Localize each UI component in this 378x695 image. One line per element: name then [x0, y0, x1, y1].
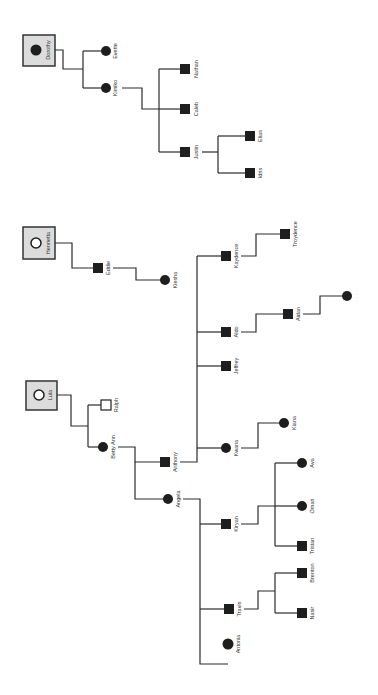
person-label: Kwana [233, 439, 239, 457]
female-icon [297, 501, 307, 511]
male-icon [221, 251, 231, 261]
person-travis[interactable]: Travis [224, 601, 242, 616]
person-label: Aldo [233, 326, 239, 337]
person-label: Brenton [309, 563, 315, 582]
person-label: Kaydence [233, 244, 239, 268]
root-lula[interactable]: Lula [26, 381, 57, 410]
root-label: Henrietta [45, 231, 51, 254]
person-label: Eddie [105, 261, 111, 275]
person-aidan[interactable]: Aidan [283, 307, 301, 321]
person-elias[interactable]: Elias [245, 130, 263, 142]
female-icon [297, 458, 307, 468]
person-kiryan[interactable]: Kiryan [221, 516, 239, 532]
person-label: Tristan [309, 538, 315, 555]
person-kiana[interactable]: Kiana [279, 415, 297, 430]
person-caleb[interactable]: Caleb [180, 102, 199, 116]
male-icon [245, 168, 255, 178]
person-tristan[interactable]: Tristan [297, 538, 315, 555]
female-icon [342, 291, 352, 301]
person-label: · · · · [353, 290, 359, 302]
person-label: Idris [257, 168, 263, 179]
female-icon [223, 639, 234, 650]
female-icon [160, 275, 170, 285]
male-icon [297, 568, 307, 578]
person-evette[interactable]: Evette [101, 43, 118, 59]
male-icon [93, 263, 103, 273]
male-icon [180, 147, 190, 157]
male-icon [280, 229, 290, 239]
person-label: Caleb [193, 102, 199, 116]
root-henrietta[interactable]: Henrietta [23, 227, 55, 259]
hollow-circle-icon [31, 238, 41, 248]
root-label: Lula [47, 389, 53, 400]
person-label: Kiesha [172, 271, 178, 289]
person-label: Aidan [295, 307, 301, 321]
person-omari[interactable]: Omari [297, 499, 315, 514]
root-label: Dorothy [45, 40, 51, 60]
person-label: Jeffrey [233, 358, 239, 375]
filled-circle-icon [31, 45, 42, 56]
male-icon [297, 608, 307, 618]
male-icon [297, 541, 307, 551]
person-label: Anthony [172, 452, 178, 472]
person-nathan[interactable]: Nathan [180, 60, 199, 78]
person-label: Omari [309, 499, 315, 514]
male-icon [221, 361, 231, 371]
person-label: Kiryan [233, 516, 239, 532]
person-justin[interactable]: Justin [180, 145, 199, 159]
person-brenton[interactable]: Brenton [297, 563, 315, 582]
female-icon [221, 443, 231, 453]
person-kaydence[interactable]: Kaydence [221, 244, 239, 268]
person-aldo[interactable]: Aldo [221, 326, 239, 337]
person-ava[interactable]: Ava [297, 457, 315, 468]
person-angela[interactable]: Angela [163, 490, 181, 508]
person-label: Nathan [193, 60, 199, 78]
female-icon [279, 418, 289, 428]
person-jeffrey[interactable]: Jeffrey [221, 358, 239, 375]
male-icon [283, 309, 293, 319]
female-icon [163, 494, 173, 504]
male-icon [160, 457, 170, 467]
person-label: Angela [175, 490, 181, 508]
person-troydence[interactable]: Troydence [280, 221, 298, 247]
female-icon [101, 46, 111, 56]
male-icon [245, 131, 255, 141]
male-icon [224, 604, 234, 614]
person-betty-ann[interactable]: Betty Ann [98, 435, 116, 459]
male-icon [221, 519, 231, 529]
female-icon [98, 442, 108, 452]
male-hollow-icon [101, 400, 111, 410]
person-idris[interactable]: Idris [245, 168, 263, 179]
person-label: Elias [257, 130, 263, 142]
person-label: Troydence [292, 221, 298, 247]
person-label: Kimiko [112, 80, 118, 97]
root-dorothy[interactable]: Dorothy [23, 35, 55, 66]
person-label: Travis [236, 601, 242, 616]
person-label: Nasir [309, 606, 315, 619]
male-icon [221, 327, 231, 337]
person-kimiko[interactable]: Kimiko [101, 80, 118, 97]
person-label: Evette [112, 43, 118, 59]
person-label: Ava [309, 457, 315, 467]
female-icon [101, 83, 111, 93]
person-kwana[interactable]: Kwana [221, 439, 239, 457]
male-icon [180, 104, 190, 114]
hollow-circle-icon [34, 390, 44, 400]
person-label: Antonia [235, 634, 241, 654]
person-label: Betty Ann [110, 435, 116, 459]
person-unlabeled[interactable]: · · · · [342, 290, 359, 302]
family-tree-diagram: Dorothy Henrietta Lula Evette Kimiko Nat… [0, 0, 378, 695]
person-antonia[interactable]: Antonia [223, 634, 242, 654]
person-label: Justin [193, 145, 199, 159]
person-nasir[interactable]: Nasir [297, 606, 315, 619]
person-eddie[interactable]: Eddie [93, 261, 111, 275]
male-icon [180, 64, 190, 74]
person-kiesha[interactable]: Kiesha [160, 271, 178, 289]
person-label: Ralph [113, 398, 119, 412]
person-anthony[interactable]: Anthony [160, 452, 178, 472]
person-ralph[interactable]: Ralph [101, 398, 119, 412]
person-label: Kiana [291, 415, 297, 430]
